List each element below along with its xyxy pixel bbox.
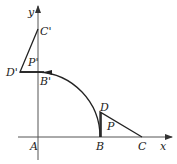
y-axis-label: y [27, 6, 35, 19]
label-p: P [106, 120, 115, 133]
label-b: B [95, 140, 104, 153]
label-d-prime: D' [5, 66, 18, 79]
label-a: A [29, 140, 38, 153]
label-c: C [138, 140, 147, 153]
geometry-diagram: y x A B C D P C' D' P' B' [0, 0, 177, 164]
x-axis-label: x [160, 140, 167, 153]
label-b-prime: B' [39, 75, 51, 88]
label-c-prime: C' [40, 25, 51, 38]
label-d: D [99, 101, 109, 114]
label-p-prime: P' [27, 56, 38, 69]
